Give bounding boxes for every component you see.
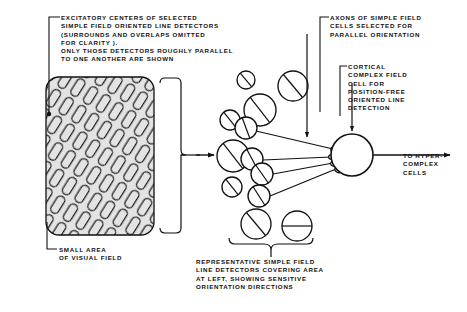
label-cortical-complex-field-cell: CORTICAL COMPLEX FIELD CELL FOR POSITION… — [348, 63, 408, 113]
detector — [237, 71, 255, 89]
simple-cell-axons — [256, 131, 336, 196]
label-representative-simple-field-detectors: REPRESENTATIVE SIMPLE FIELD LINE DETECTO… — [196, 258, 324, 291]
label-excitatory-centers: EXCITATORY CENTERS OF SELECTED SIMPLE FI… — [61, 14, 233, 64]
visual-field-bracket — [160, 78, 200, 233]
detector-connected — [248, 185, 270, 207]
label-axons-of-simple-field-cells: AXONS OF SIMPLE FIELD CELLS SELECTED FOR… — [330, 14, 422, 39]
detector — [241, 209, 271, 239]
diagram-root: EXCITATORY CENTERS OF SELECTED SIMPLE FI… — [0, 0, 467, 312]
leader-axons-simple — [320, 17, 329, 112]
excitatory-center-tiling — [46, 77, 154, 235]
simple-field-detectors — [217, 71, 312, 241]
cortical-complex-cell — [331, 134, 373, 176]
detector-connected — [251, 163, 273, 185]
detector-connected — [235, 117, 257, 139]
label-to-hyper-complex-cells: TO HYPER- COMPLEX CELLS — [403, 152, 443, 177]
detector — [282, 211, 312, 241]
detector — [222, 177, 242, 197]
label-small-area-of-visual-field: SMALL AREA OF VISUAL FIELD — [59, 246, 122, 263]
detector — [278, 71, 308, 101]
leader-cortical-complex — [340, 66, 347, 116]
visual-field-panel — [46, 77, 154, 235]
